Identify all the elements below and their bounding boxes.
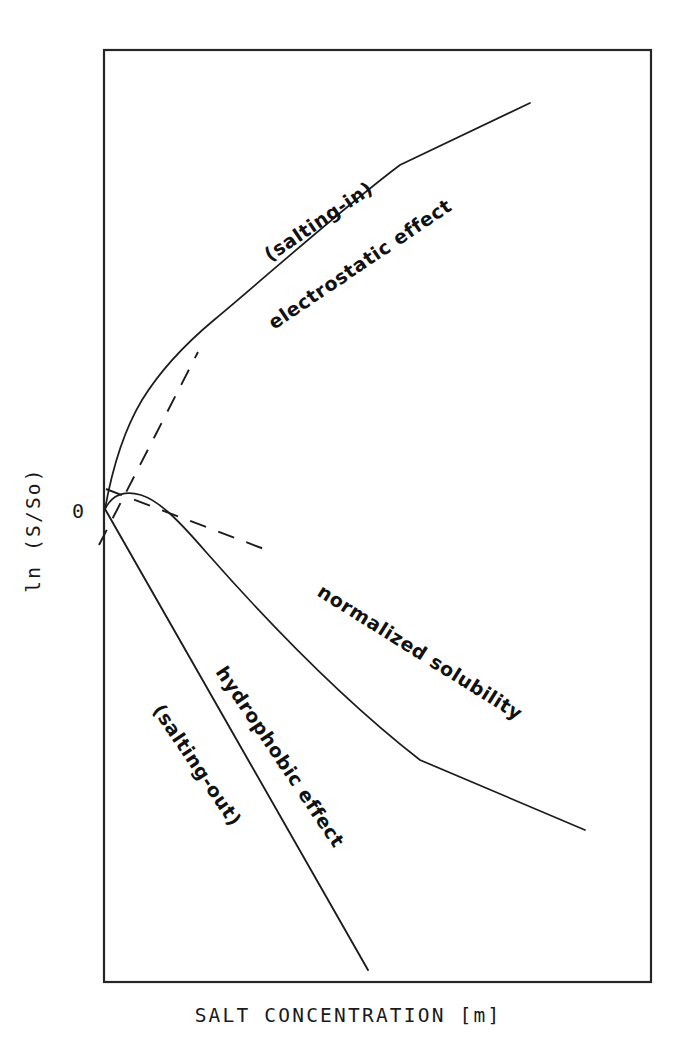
x-axis-title: SALT CONCENTRATION [m] (195, 1004, 502, 1027)
plot-frame (104, 50, 651, 982)
y-axis-title: ln (S/So) (22, 467, 45, 592)
y-tick-zero: 0 (72, 499, 84, 523)
solubility-schematic-figure: (salting-in) electrostatic effect normal… (0, 0, 687, 1049)
chart-canvas: (salting-in) electrostatic effect normal… (0, 0, 687, 1049)
